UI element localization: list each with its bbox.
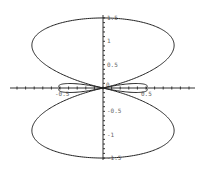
polar-plot: -0.50.51.510.50-0.5-1-1.5 — [0, 0, 200, 175]
x-tick-label: -0.5 — [55, 90, 70, 97]
y-tick-label: -1 — [107, 131, 115, 138]
y-tick-label: 1.5 — [107, 14, 118, 21]
y-tick-label: 1 — [107, 37, 111, 44]
y-tick-label: 0.5 — [107, 61, 118, 68]
y-tick-label: -0.5 — [107, 107, 122, 114]
